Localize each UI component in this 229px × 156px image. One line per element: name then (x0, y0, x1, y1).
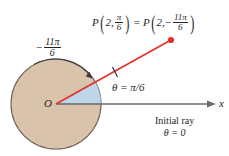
radius-value-right: 2, (156, 17, 164, 28)
point-p-right-symbol: P (143, 17, 150, 28)
x-axis-label: x (219, 98, 224, 109)
negative-angle-numerator: 11π (44, 37, 60, 47)
theta-fraction-left: π 6 (115, 13, 124, 32)
negative-angle-fraction: 11π 6 (44, 37, 60, 58)
initial-ray-caption-line2: θ = 0 (155, 128, 194, 138)
point-p-label: P ( 2, π 6 ) = P ( 2, − 11π 6 ) (92, 13, 195, 32)
negative-angle-sign: − (36, 42, 42, 53)
negative-angle-denominator: 6 (44, 47, 60, 58)
negative-angle-label: − 11π 6 (36, 37, 62, 58)
theta-numerator-left: π (116, 13, 123, 22)
theta-numerator-right: 11π (173, 13, 188, 22)
equals-sign: = (134, 17, 140, 28)
origin-label: O (44, 98, 52, 109)
initial-ray-caption-line1: Initial ray (155, 116, 194, 126)
x-axis-arrowhead (207, 100, 216, 107)
theta-denominator-right: 6 (173, 22, 188, 32)
point-p-marker (168, 37, 174, 43)
initial-ray-caption: Initial ray θ = 0 (155, 116, 194, 138)
theta-denominator-left: 6 (115, 22, 124, 32)
negative-sign-right: − (165, 17, 171, 28)
radius-value-left: 2, (105, 17, 113, 28)
polar-coordinate-figure: P ( 2, π 6 ) = P ( 2, − 11π 6 ) − 11π 6 … (0, 0, 229, 156)
point-p-left-symbol: P (92, 17, 99, 28)
theta-fraction-right: 11π 6 (173, 13, 188, 32)
theta-angle-label: θ = π/6 (112, 82, 144, 93)
